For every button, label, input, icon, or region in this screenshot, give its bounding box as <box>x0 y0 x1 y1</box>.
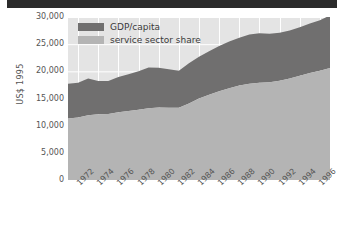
y-tick-label: 10,000 <box>14 122 64 130</box>
y-tick-label: 15,000 <box>14 95 64 103</box>
y-tick-label: 25,000 <box>14 40 64 48</box>
y-tick-label: 20,000 <box>14 67 64 75</box>
x-axis-tick-labels: 1972197419761978198019821984198619881990… <box>68 181 330 226</box>
y-tick-label: 30,000 <box>14 13 64 21</box>
y-axis-tick-labels: 05,00010,00015,00020,00025,00030,000 <box>14 11 64 186</box>
y-tick-label: 0 <box>14 176 64 184</box>
top-dark-banner-bar <box>7 0 337 8</box>
legend-label: GDP/capita <box>110 22 160 32</box>
legend-color-swatch <box>78 36 104 44</box>
y-tick-label: 5,000 <box>14 149 64 157</box>
legend-color-swatch <box>78 23 104 31</box>
chart-legend: GDP/capitaservice sector share <box>78 22 228 48</box>
legend-label: service sector share <box>110 35 201 45</box>
chart-figure: US$ 1995 05,00010,00015,00020,00025,0003… <box>0 0 344 226</box>
